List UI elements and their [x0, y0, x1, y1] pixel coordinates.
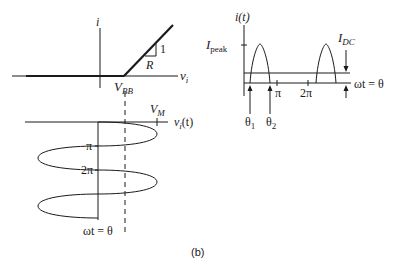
- pulse-1: [250, 44, 270, 83]
- time-axis-label: ωt = θ: [83, 225, 113, 237]
- theta1-label: θ1: [245, 116, 255, 131]
- pulse-2: [316, 44, 336, 83]
- 2pi-tick-label: 2π: [81, 164, 93, 176]
- theta-axis-label: ωt = θ: [354, 78, 384, 90]
- vbb-label: VBB: [114, 80, 133, 96]
- idc-down-arrow-icon: [344, 66, 349, 72]
- theta1-arrow-icon: [248, 85, 253, 91]
- theta2-label: θ2: [266, 116, 276, 131]
- current-plot: [241, 25, 351, 114]
- vm-label: VM: [150, 103, 165, 118]
- figure-caption: (b): [191, 247, 204, 258]
- i-axis-label: i: [96, 16, 99, 28]
- input-waveform: [25, 118, 168, 220]
- idc-up-arrow-icon: [344, 85, 349, 91]
- ipeak-label: Ipeak: [206, 38, 227, 54]
- vi-t-label: vi(t): [174, 116, 193, 131]
- vi-axis-label: vi: [180, 69, 188, 85]
- idc-label: IDC: [338, 31, 355, 47]
- slope-rise-label: 1: [160, 43, 166, 55]
- current-pi-tick-label: π: [275, 87, 281, 99]
- slope-run-label: R: [146, 59, 153, 71]
- transfer-characteristic: [12, 25, 178, 88]
- it-axis-label: i(t): [235, 11, 250, 23]
- theta2-arrow-icon: [268, 85, 273, 91]
- pi-tick-label: π: [86, 140, 92, 152]
- current-2pi-tick-label: 2π: [300, 87, 312, 99]
- diagram-canvas: [0, 0, 395, 269]
